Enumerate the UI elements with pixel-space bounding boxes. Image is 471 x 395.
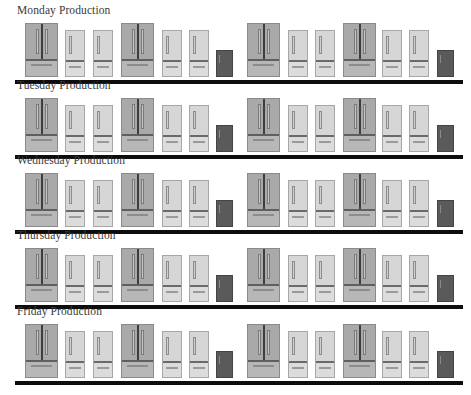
large-french-door-fridge-icon: [25, 248, 58, 302]
small-fridge-icon: [162, 331, 182, 378]
small-fridge-icon: [409, 331, 429, 378]
mini-fridge-icon: [437, 200, 454, 227]
large-french-door-fridge-icon: [247, 23, 280, 77]
small-fridge-icon: [65, 30, 85, 77]
mini-fridge-icon: [437, 125, 454, 152]
small-fridge-icon: [65, 255, 85, 302]
small-fridge-icon: [315, 180, 335, 227]
mini-fridge-icon: [216, 351, 233, 378]
large-french-door-fridge-icon: [343, 173, 376, 227]
section-title: Tuesday Production: [17, 79, 111, 91]
small-fridge-icon: [409, 30, 429, 77]
small-fridge-icon: [382, 255, 402, 302]
section-title: Monday Production: [17, 4, 110, 16]
large-french-door-fridge-icon: [343, 324, 376, 378]
small-fridge-icon: [288, 180, 308, 227]
mini-fridge-icon: [437, 275, 454, 302]
small-fridge-icon: [93, 30, 113, 77]
large-french-door-fridge-icon: [247, 324, 280, 378]
small-fridge-icon: [162, 30, 182, 77]
large-french-door-fridge-icon: [25, 324, 58, 378]
mini-fridge-icon: [437, 50, 454, 77]
large-french-door-fridge-icon: [121, 248, 154, 302]
small-fridge-icon: [189, 331, 209, 378]
small-fridge-icon: [93, 255, 113, 302]
mini-fridge-icon: [216, 275, 233, 302]
small-fridge-icon: [382, 180, 402, 227]
small-fridge-icon: [65, 331, 85, 378]
small-fridge-icon: [162, 255, 182, 302]
mini-fridge-icon: [437, 351, 454, 378]
mini-fridge-icon: [216, 50, 233, 77]
mini-fridge-icon: [216, 125, 233, 152]
small-fridge-icon: [409, 180, 429, 227]
large-french-door-fridge-icon: [121, 324, 154, 378]
large-french-door-fridge-icon: [121, 173, 154, 227]
large-french-door-fridge-icon: [121, 98, 154, 152]
small-fridge-icon: [315, 105, 335, 152]
large-french-door-fridge-icon: [343, 248, 376, 302]
mini-fridge-icon: [216, 200, 233, 227]
small-fridge-icon: [93, 180, 113, 227]
small-fridge-icon: [288, 30, 308, 77]
large-french-door-fridge-icon: [25, 23, 58, 77]
section-title: Thursday Production: [17, 229, 116, 241]
large-french-door-fridge-icon: [25, 173, 58, 227]
large-french-door-fridge-icon: [25, 98, 58, 152]
small-fridge-icon: [409, 105, 429, 152]
section-friday: Friday Production: [0, 304, 471, 379]
small-fridge-icon: [382, 30, 402, 77]
small-fridge-icon: [382, 105, 402, 152]
section-title: Wednesday Production: [17, 154, 125, 166]
section-tuesday: Tuesday Production: [0, 78, 471, 153]
small-fridge-icon: [315, 331, 335, 378]
section-divider: [15, 381, 463, 385]
small-fridge-icon: [65, 105, 85, 152]
small-fridge-icon: [189, 255, 209, 302]
large-french-door-fridge-icon: [121, 23, 154, 77]
small-fridge-icon: [93, 105, 113, 152]
small-fridge-icon: [162, 105, 182, 152]
small-fridge-icon: [162, 180, 182, 227]
large-french-door-fridge-icon: [343, 98, 376, 152]
section-thursday: Thursday Production: [0, 228, 471, 303]
small-fridge-icon: [189, 180, 209, 227]
large-french-door-fridge-icon: [247, 248, 280, 302]
section-title: Friday Production: [17, 305, 102, 317]
small-fridge-icon: [288, 105, 308, 152]
large-french-door-fridge-icon: [247, 173, 280, 227]
small-fridge-icon: [409, 255, 429, 302]
small-fridge-icon: [189, 105, 209, 152]
section-wednesday: Wednesday Production: [0, 153, 471, 228]
small-fridge-icon: [65, 180, 85, 227]
large-french-door-fridge-icon: [343, 23, 376, 77]
large-french-door-fridge-icon: [247, 98, 280, 152]
small-fridge-icon: [315, 30, 335, 77]
small-fridge-icon: [288, 331, 308, 378]
small-fridge-icon: [189, 30, 209, 77]
small-fridge-icon: [382, 331, 402, 378]
small-fridge-icon: [288, 255, 308, 302]
section-monday: Monday Production: [0, 3, 471, 78]
small-fridge-icon: [315, 255, 335, 302]
small-fridge-icon: [93, 331, 113, 378]
